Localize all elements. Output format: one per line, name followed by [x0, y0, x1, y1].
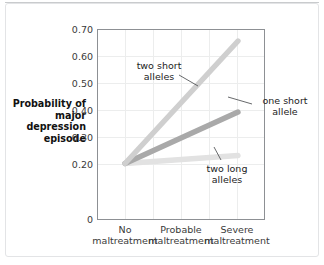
gridline-vertical-4 — [209, 30, 210, 219]
y-tick-label-070: 0.70 — [53, 25, 93, 35]
gridline-vertical-3 — [181, 30, 182, 219]
annotation-two-long-alleles: two long alleles — [196, 163, 258, 185]
x-tick-label-severe-maltreatment: Severe maltreatment — [198, 224, 276, 246]
y-tick-label-050: 0.50 — [53, 79, 93, 89]
gridline-vertical-1 — [125, 30, 126, 219]
annotation-one-short-allele: one short allele — [254, 95, 316, 117]
gridline-vertical-2 — [153, 30, 154, 219]
y-tick-label-030: 0.30 — [53, 133, 93, 143]
gridline-vertical-5 — [237, 30, 238, 219]
y-tick-label-040: 0.40 — [53, 106, 93, 116]
y-tick-label-060: 0.60 — [53, 52, 93, 62]
y-tick-label-020: 0.20 — [53, 160, 93, 170]
annotation-two-short-alleles: two short alleles — [128, 60, 190, 82]
figure-panel: Probability of major depression episode … — [0, 0, 324, 265]
plot-area — [97, 29, 265, 220]
